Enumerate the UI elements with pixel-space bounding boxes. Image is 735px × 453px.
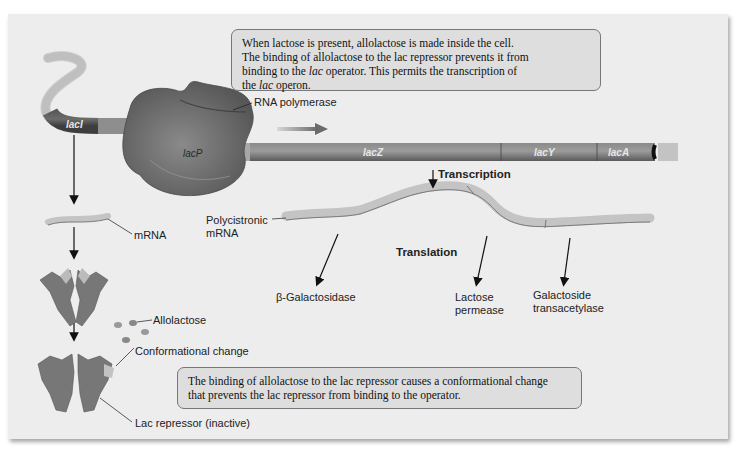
- callout-top-line4-italic: lac: [259, 79, 273, 91]
- gene-label-lacp: lacP: [183, 148, 202, 159]
- label-mrna: mRNA: [134, 229, 166, 242]
- callout-top-line3-post: operator. This permits the transcription…: [323, 65, 517, 77]
- rna-polymerase-shape: [123, 81, 253, 195]
- polycistronic-mrna-ribbon: [272, 186, 650, 228]
- callout-top-line4-post: operon.: [273, 79, 311, 91]
- label-polycistronic-line2: mRNA: [206, 227, 238, 239]
- gene-label-lacz: lacZ: [363, 147, 383, 158]
- callout-bottom-line2: that prevents the lac repressor from bin…: [188, 389, 461, 401]
- callout-top-line3-italic: lac: [309, 65, 323, 77]
- label-galactoside-transacetylase: Galactoside transacetylase: [533, 289, 604, 315]
- gene-label-laca: lacA: [608, 147, 629, 158]
- label-permease-line1: Lactose: [455, 291, 494, 303]
- label-transacetylase-line2: transacetylase: [533, 302, 604, 314]
- laci-mrna-ribbon: [48, 216, 132, 234]
- label-translation: Translation: [396, 246, 457, 259]
- label-transacetylase-line1: Galactoside: [533, 289, 591, 301]
- arrow-to-beta-galactosidase: [318, 234, 338, 282]
- label-allolactose: Allolactose: [153, 314, 206, 327]
- callout-bottom-line1: The binding of allolactose to the lac re…: [188, 375, 548, 387]
- label-conformational-change: Conformational change: [135, 345, 249, 358]
- label-rna-polymerase: RNA polymerase: [254, 96, 337, 109]
- allolactose-molecules: [114, 320, 152, 343]
- gene-label-laci: lacI: [66, 119, 83, 130]
- gene-label-lacy: lacY: [534, 147, 555, 158]
- callout-conformational-change: The binding of allolactose to the lac re…: [177, 367, 582, 409]
- label-lac-repressor-inactive: Lac repressor (inactive): [135, 417, 250, 430]
- arrow-to-lactose-permease: [477, 236, 487, 282]
- label-polycistronic: Polycistronic mRNA: [206, 214, 268, 240]
- lac-repressor-active: [40, 268, 108, 326]
- callout-lactose-present: When lactose is present, allolactose is …: [231, 29, 601, 91]
- transcription-direction-arrow: [277, 123, 328, 135]
- label-permease-line2: permease: [455, 304, 504, 316]
- label-polycistronic-line1: Polycistronic: [206, 214, 268, 226]
- lac-repressor-inactive: [38, 348, 134, 422]
- label-beta-galactosidase: β-Galactosidase: [276, 291, 356, 304]
- callout-top-line3-pre: binding to the: [242, 65, 309, 77]
- label-lactose-permease: Lactose permease: [455, 291, 504, 317]
- callout-top-line4-pre: the: [242, 79, 259, 91]
- label-transcription: Transcription: [438, 168, 511, 181]
- arrow-to-galactoside-transacetylase: [564, 238, 570, 282]
- callout-top-line1: When lactose is present, allolactose is …: [242, 37, 514, 49]
- callout-top-line2: The binding of allolactose to the lac re…: [242, 51, 529, 63]
